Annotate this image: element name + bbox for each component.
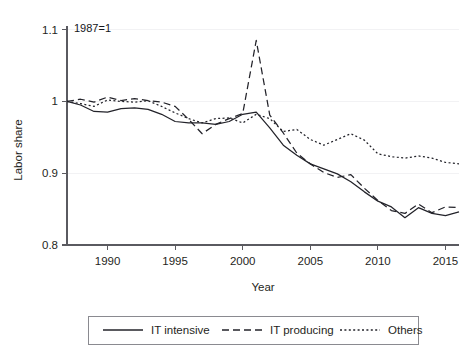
legend-label-others: Others [388,324,423,336]
x-axis-title: Year [251,281,274,293]
x-tick-label: 2000 [230,255,256,267]
series-line-others [67,100,459,164]
y-tick-label: 0.9 [42,167,58,179]
x-tick-label: 2015 [433,255,459,267]
chart-figure: 0.80.911.1 199019952000200520102015 Labo… [0,0,465,354]
x-tick-label: 2005 [298,255,324,267]
y-tick-label: 1.1 [42,24,58,36]
y-axis-title: Labor share [12,119,24,180]
line-chart: 0.80.911.1 199019952000200520102015 Labo… [0,0,465,354]
legend-label-it-producing: IT producing [270,324,334,336]
series-line-it-intensive [67,101,459,217]
y-axis-ticks: 0.80.911.1 [42,24,67,251]
y-tick-label: 0.8 [42,239,58,251]
x-tick-label: 1995 [162,255,188,267]
x-tick-label: 1990 [95,255,121,267]
page-header-artifact [0,0,465,12]
series-line-it-producing [67,40,459,213]
x-axis-ticks: 199019952000200520102015 [95,245,459,267]
x-tick-label: 2010 [365,255,391,267]
data-series-group [67,40,459,217]
y-tick-label: 1 [52,95,58,107]
legend-label-it-intensive: IT intensive [151,324,210,336]
normalization-note: 1987=1 [74,22,111,34]
